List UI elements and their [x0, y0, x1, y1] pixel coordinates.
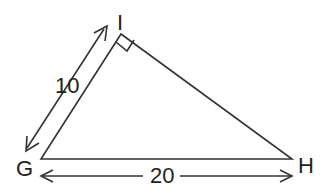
vertex-label-h: H — [298, 155, 314, 177]
side-label-gh: 20 — [150, 165, 174, 187]
vertex-label-i: I — [117, 12, 123, 34]
vertex-label-g: G — [16, 158, 33, 180]
side-label-gi: 10 — [55, 75, 79, 97]
